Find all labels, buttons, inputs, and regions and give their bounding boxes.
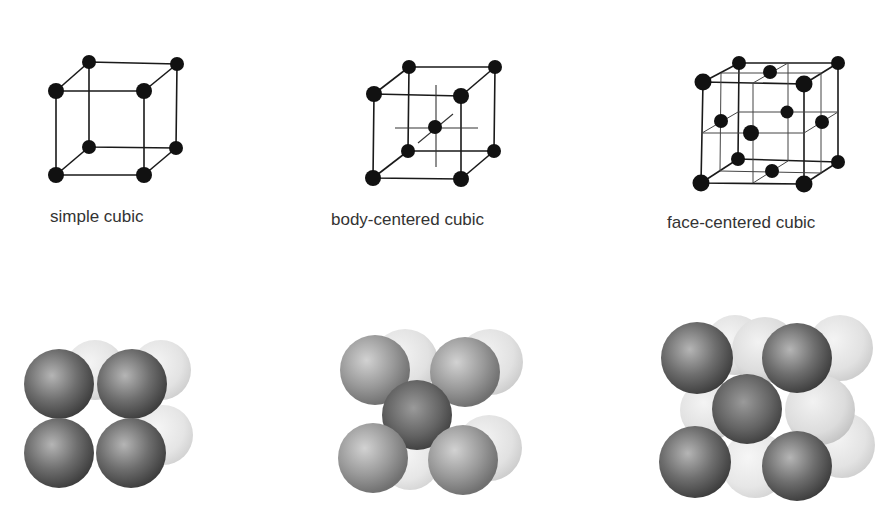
bcc-sphere-model	[338, 329, 523, 495]
fcc-face-atom-left	[714, 114, 728, 128]
fcc-face-atom-back	[781, 106, 794, 119]
fcc-face-atom-top	[763, 65, 777, 79]
crystal-lattice-figure	[0, 0, 893, 513]
fcc-label: face-centered cubic	[667, 213, 815, 233]
bcc-label: body-centered cubic	[331, 210, 484, 230]
simple-cubic-label: simple cubic	[50, 207, 144, 227]
fcc-sphere-model	[659, 315, 875, 501]
fcc-face-atom-right	[815, 115, 829, 129]
simple-cubic-wireframe	[56, 62, 177, 175]
fcc-face-atom-front	[743, 125, 759, 141]
bcc-center-atom	[428, 120, 442, 134]
fcc-face-atom-bottom	[765, 164, 779, 178]
simple-cubic-sphere-model	[24, 340, 193, 488]
